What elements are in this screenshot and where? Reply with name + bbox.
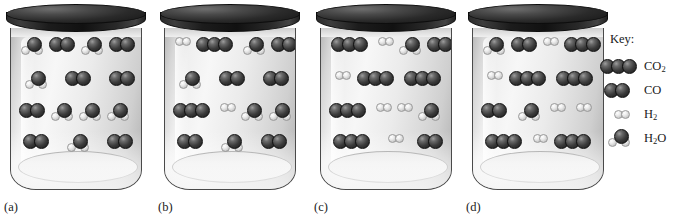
co2-molecule-icon bbox=[404, 71, 441, 86]
panel-label-d: (d) bbox=[466, 200, 481, 215]
jar-glass bbox=[10, 30, 142, 190]
h2o-molecule-icon bbox=[51, 103, 73, 122]
co2-molecule-icon bbox=[600, 59, 637, 74]
jar-floor bbox=[328, 151, 448, 183]
lid-top bbox=[6, 4, 146, 24]
co2-molecule-icon bbox=[357, 71, 394, 86]
h2o-molecule-icon bbox=[221, 134, 243, 153]
jar-b bbox=[160, 4, 300, 194]
heavy-atom-icon bbox=[353, 37, 368, 52]
key-entry-h2: H2 bbox=[600, 102, 679, 126]
heavy-atom-icon bbox=[57, 103, 72, 118]
h2-molecule-icon bbox=[378, 37, 394, 46]
hydrogen-atom-icon bbox=[550, 37, 559, 46]
co-molecule-icon bbox=[49, 37, 75, 52]
lid-top bbox=[160, 4, 300, 24]
co-molecule-icon bbox=[261, 134, 287, 149]
co-molecule-icon bbox=[65, 71, 91, 86]
h2-molecule-icon bbox=[335, 71, 351, 80]
hydrogen-atom-icon bbox=[395, 134, 404, 143]
heavy-atom-icon bbox=[73, 134, 88, 149]
h2o-molecule-icon bbox=[21, 37, 43, 56]
hydrogen-atom-icon bbox=[385, 37, 394, 46]
heavy-atom-icon bbox=[615, 83, 630, 98]
heavy-atom-icon bbox=[355, 134, 370, 149]
h2-molecule-icon bbox=[397, 103, 413, 112]
hydrogen-atom-icon bbox=[557, 103, 566, 112]
jar-d bbox=[468, 4, 608, 194]
heavy-atom-icon bbox=[76, 71, 91, 86]
heavy-atom-icon bbox=[274, 71, 289, 86]
co2-molecule-icon bbox=[556, 71, 593, 86]
h2-molecule-icon bbox=[600, 103, 644, 125]
key-label-h2: H2 bbox=[644, 107, 657, 122]
key-entry-h2o: H2O bbox=[600, 126, 679, 150]
jar-c bbox=[316, 4, 456, 194]
hydrogen-atom-icon bbox=[494, 71, 503, 80]
co-molecule-icon bbox=[417, 134, 443, 149]
h2o-molecule-icon bbox=[179, 71, 201, 90]
co2-molecule-icon bbox=[329, 103, 366, 118]
heavy-atom-icon bbox=[34, 134, 49, 149]
heavy-atom-icon bbox=[120, 71, 135, 86]
co-molecule-icon bbox=[263, 71, 289, 86]
key-label-co2: CO2 bbox=[644, 59, 666, 74]
h2-molecule-icon bbox=[376, 103, 392, 112]
key-label-h2o: H2O bbox=[644, 131, 666, 146]
h2-molecule-icon bbox=[576, 103, 592, 112]
co-molecule-icon bbox=[219, 71, 245, 86]
h2o-molecule-icon bbox=[418, 103, 440, 122]
heavy-atom-icon bbox=[424, 103, 439, 118]
h2o-molecule-icon bbox=[518, 103, 540, 122]
lid-top bbox=[468, 4, 608, 24]
co2-molecule-icon bbox=[333, 134, 370, 149]
heavy-atom-icon bbox=[120, 37, 135, 52]
h2-molecule-icon bbox=[614, 110, 630, 119]
co2-molecule-icon bbox=[509, 71, 546, 86]
panel-label-a: (a) bbox=[4, 200, 18, 215]
heavy-atom-icon bbox=[249, 37, 264, 52]
h2-molecule-icon bbox=[550, 103, 566, 112]
co-molecule-icon bbox=[109, 71, 135, 86]
heavy-atom-icon bbox=[438, 37, 452, 52]
heavy-atom-icon bbox=[275, 103, 290, 118]
panel-label-c: (c) bbox=[314, 200, 328, 215]
jar-glass bbox=[472, 30, 604, 190]
heavy-atom-icon bbox=[524, 103, 539, 118]
heavy-atom-icon bbox=[30, 103, 45, 118]
heavy-atom-icon bbox=[31, 71, 46, 86]
hydrogen-atom-icon bbox=[539, 134, 548, 143]
heavy-atom-icon bbox=[230, 71, 245, 86]
heavy-atom-icon bbox=[622, 59, 637, 74]
co-molecule-icon bbox=[604, 83, 630, 98]
hydrogen-atom-icon bbox=[383, 103, 392, 112]
h2-molecule-icon bbox=[220, 103, 236, 112]
co2-molecule-icon bbox=[485, 134, 522, 149]
heavy-atom-icon bbox=[27, 37, 42, 52]
h2o-molecule-icon bbox=[241, 103, 263, 122]
key-entry-co: CO bbox=[600, 78, 679, 102]
panel-label-b: (b) bbox=[158, 200, 173, 215]
hydrogen-atom-icon bbox=[342, 71, 351, 80]
co-molecule-icon bbox=[177, 134, 203, 149]
key-entry-co2: CO2 bbox=[600, 54, 679, 78]
co-molecule-icon bbox=[271, 37, 296, 52]
jar-floor bbox=[480, 151, 600, 183]
heavy-atom-icon bbox=[489, 37, 504, 52]
jar-a bbox=[6, 4, 146, 194]
co-molecule-icon bbox=[511, 37, 537, 52]
heavy-atom-icon bbox=[522, 37, 537, 52]
h2-molecule-icon bbox=[388, 134, 404, 143]
co2-molecule-icon bbox=[173, 103, 210, 118]
co2-molecule-icon bbox=[564, 37, 601, 52]
h2o-molecule-icon bbox=[25, 71, 47, 90]
jar-floor bbox=[18, 151, 138, 183]
co-molecule-icon bbox=[107, 134, 133, 149]
heavy-atom-icon bbox=[247, 103, 262, 118]
co2-molecule-icon bbox=[554, 134, 591, 149]
h2o-molecule-icon bbox=[269, 103, 291, 122]
h2o-molecule-icon bbox=[600, 127, 644, 149]
h2o-molecule-icon bbox=[483, 37, 505, 56]
jar-glass bbox=[164, 30, 296, 190]
co-molecule-icon bbox=[19, 103, 45, 118]
